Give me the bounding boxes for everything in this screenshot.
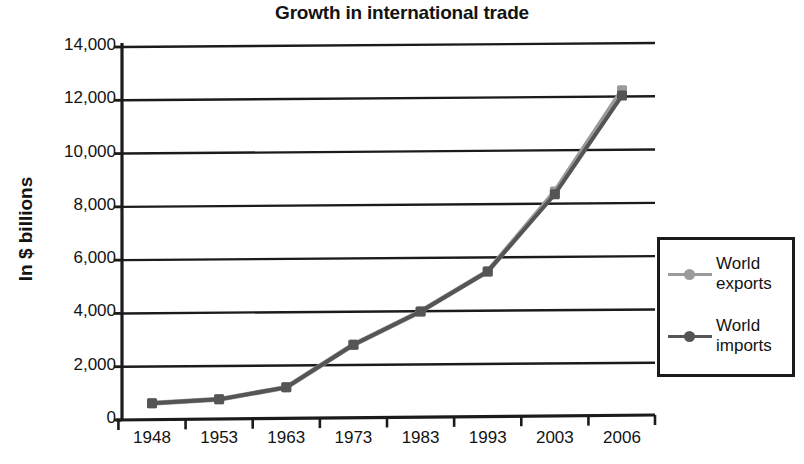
gridline: [122, 150, 655, 154]
data-point-world-imports-1963: [281, 382, 291, 392]
gridline: [122, 256, 655, 260]
data-point-world-imports-1973: [348, 340, 358, 350]
gridline: [122, 309, 655, 313]
chart-legend: World exports World imports: [657, 237, 795, 377]
gridline: [122, 43, 655, 47]
legend-label-imports: World imports: [716, 316, 772, 356]
plot-area: [0, 0, 804, 464]
data-point-world-imports-2003: [550, 189, 560, 199]
data-point-world-imports-1993: [483, 266, 493, 276]
series-line-world-exports: [152, 90, 622, 403]
legend-marker-icon-exports: [668, 266, 712, 282]
data-point-world-imports-1948: [147, 398, 157, 408]
legend-label-exports: World exports: [716, 254, 772, 294]
legend-item-world-exports: World exports: [668, 254, 792, 294]
legend-item-world-imports: World imports: [668, 316, 792, 356]
legend-marker-icon-imports: [668, 328, 712, 344]
gridline: [122, 96, 655, 100]
chart-container: Growth in international trade In $ billi…: [0, 0, 804, 464]
x-axis-line: [116, 415, 655, 420]
gridline: [122, 363, 655, 367]
gridline: [122, 203, 655, 207]
data-point-world-imports-1983: [416, 306, 426, 316]
data-point-world-imports-2006: [617, 91, 627, 101]
data-point-world-imports-1953: [214, 394, 224, 404]
series-line-world-imports: [152, 96, 622, 404]
